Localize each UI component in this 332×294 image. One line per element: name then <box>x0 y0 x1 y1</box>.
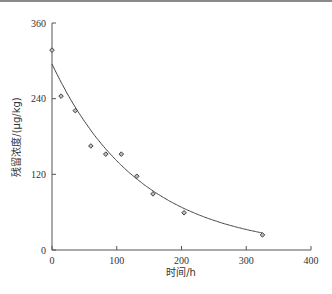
x-tick-label: 0 <box>50 255 55 266</box>
x-tick-label: 400 <box>304 255 319 266</box>
axes: 01002003004000120240360 <box>31 18 319 267</box>
data-points <box>50 48 265 237</box>
fitted-curve <box>52 64 262 233</box>
data-point-diamond <box>50 48 55 53</box>
y-axis-title: 残留浓度/(μg/kg) <box>10 97 22 176</box>
decay-chart: 01002003004000120240360 时间/h 残留浓度/(μg/kg… <box>0 0 332 294</box>
x-tick-label: 100 <box>109 255 124 266</box>
y-tick-label: 360 <box>31 18 46 29</box>
y-tick-label: 120 <box>31 169 46 180</box>
data-point-diamond <box>103 152 108 157</box>
data-point-diamond <box>59 94 64 99</box>
data-point-diamond <box>260 233 265 238</box>
data-point-diamond <box>182 210 187 215</box>
y-tick-label: 240 <box>31 93 46 104</box>
x-tick-label: 300 <box>239 255 254 266</box>
x-tick-label: 200 <box>174 255 189 266</box>
data-point-diamond <box>119 152 124 157</box>
data-point-diamond <box>89 144 94 149</box>
x-axis-title: 时间/h <box>166 266 196 278</box>
y-tick-label: 0 <box>41 245 46 256</box>
fit-line <box>52 64 262 233</box>
